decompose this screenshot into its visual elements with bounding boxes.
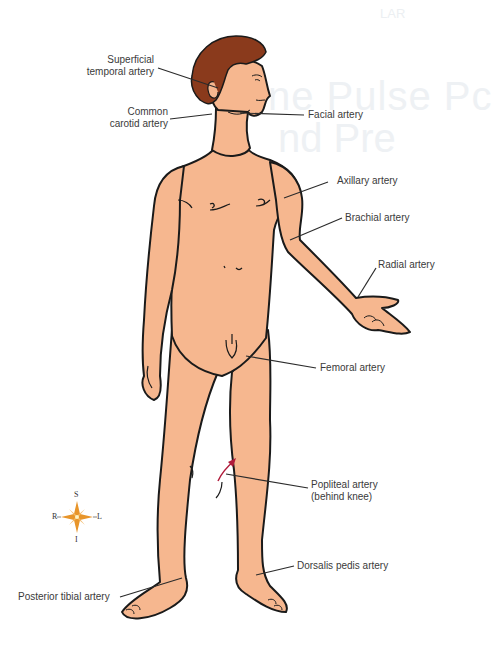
left-arm	[270, 162, 410, 334]
compass-left: L	[97, 513, 102, 521]
compass-right: R	[52, 513, 57, 521]
label-axillary-artery: Axillary artery	[337, 175, 398, 187]
label-brachial-artery: Brachial artery	[345, 212, 409, 224]
label-radial-artery: Radial artery	[378, 259, 435, 271]
label-femoral-artery: Femoral artery	[320, 362, 385, 374]
label-line-2: carotid artery	[96, 118, 168, 130]
label-line-2: (behind knee)	[311, 491, 378, 503]
label-dorsalis-pedis-artery: Dorsalis pedis artery	[297, 560, 388, 572]
label-superficial-temporal-artery: Superficial temporal artery	[78, 54, 154, 78]
label-line-1: Superficial	[78, 54, 154, 66]
right-leg	[122, 330, 218, 618]
label-line-1: Common	[96, 106, 168, 118]
compass-superior: S	[74, 491, 78, 499]
label-posterior-tibial-artery: Posterior tibial artery	[18, 591, 110, 603]
label-popliteal-artery: Popliteal artery (behind knee)	[311, 479, 378, 503]
label-line-1: Popliteal artery	[311, 479, 378, 491]
neck	[212, 108, 250, 156]
label-line-2: temporal artery	[78, 66, 154, 78]
compass-rose-icon	[57, 501, 97, 533]
label-facial-artery: Facial artery	[308, 109, 363, 121]
compass-inferior: I	[75, 536, 78, 544]
label-common-carotid-artery: Common carotid artery	[96, 106, 168, 130]
